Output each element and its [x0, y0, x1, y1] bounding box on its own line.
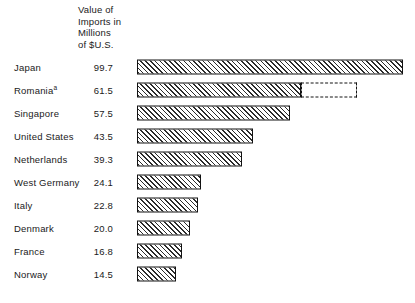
value-bar: [137, 221, 190, 236]
value-bar: [137, 198, 198, 213]
chart-row: Norway14.5: [0, 263, 415, 286]
value-column-header-line-4: of $U.S.: [78, 39, 138, 51]
value-column-header-line-2: Imports in: [78, 16, 138, 28]
value-label: 61.5: [63, 84, 113, 95]
chart-row: United States43.5: [0, 124, 415, 147]
value-column-header: Value of Imports in Millions of $U.S.: [78, 4, 138, 50]
value-bar: [137, 59, 403, 74]
category-label: Japan: [14, 61, 41, 72]
category-label: Netherlands: [14, 153, 67, 164]
chart-row: Denmark20.0: [0, 217, 415, 240]
value-column-header-line-1: Value of: [78, 4, 138, 16]
projected-bar-outline: [301, 82, 357, 97]
category-label: Romaniaa: [14, 84, 57, 96]
category-label: Italy: [14, 200, 32, 211]
category-label: France: [14, 246, 45, 257]
chart-row: Italy22.8: [0, 194, 415, 217]
value-label: 99.7: [63, 61, 113, 72]
horizontal-bar-chart: Value of Imports in Millions of $U.S. Ja…: [0, 0, 415, 303]
chart-row: Netherlands39.3: [0, 147, 415, 170]
chart-row: Romaniaa61.5: [0, 78, 415, 101]
value-bar: [137, 267, 176, 282]
value-label: 20.0: [63, 223, 113, 234]
value-label: 43.5: [63, 130, 113, 141]
value-bar: [137, 175, 201, 190]
value-bar: [137, 82, 301, 97]
value-bar: [137, 151, 242, 166]
category-label: Denmark: [14, 223, 54, 234]
value-label: 39.3: [63, 153, 113, 164]
chart-row: France16.8: [0, 240, 415, 263]
category-label: Singapore: [14, 107, 59, 118]
value-bar: [137, 128, 253, 143]
chart-row: Japan99.7: [0, 55, 415, 78]
value-label: 57.5: [63, 107, 113, 118]
chart-row: Singapore57.5: [0, 101, 415, 124]
value-bar: [137, 244, 182, 259]
value-bar: [137, 105, 290, 120]
value-label: 16.8: [63, 246, 113, 257]
value-label: 24.1: [63, 177, 113, 188]
chart-row: West Germany24.1: [0, 171, 415, 194]
value-label: 22.8: [63, 200, 113, 211]
value-label: 14.5: [63, 269, 113, 280]
footnote-marker: a: [53, 84, 57, 91]
category-label: Norway: [14, 269, 47, 280]
value-column-header-line-3: Millions: [78, 27, 138, 39]
